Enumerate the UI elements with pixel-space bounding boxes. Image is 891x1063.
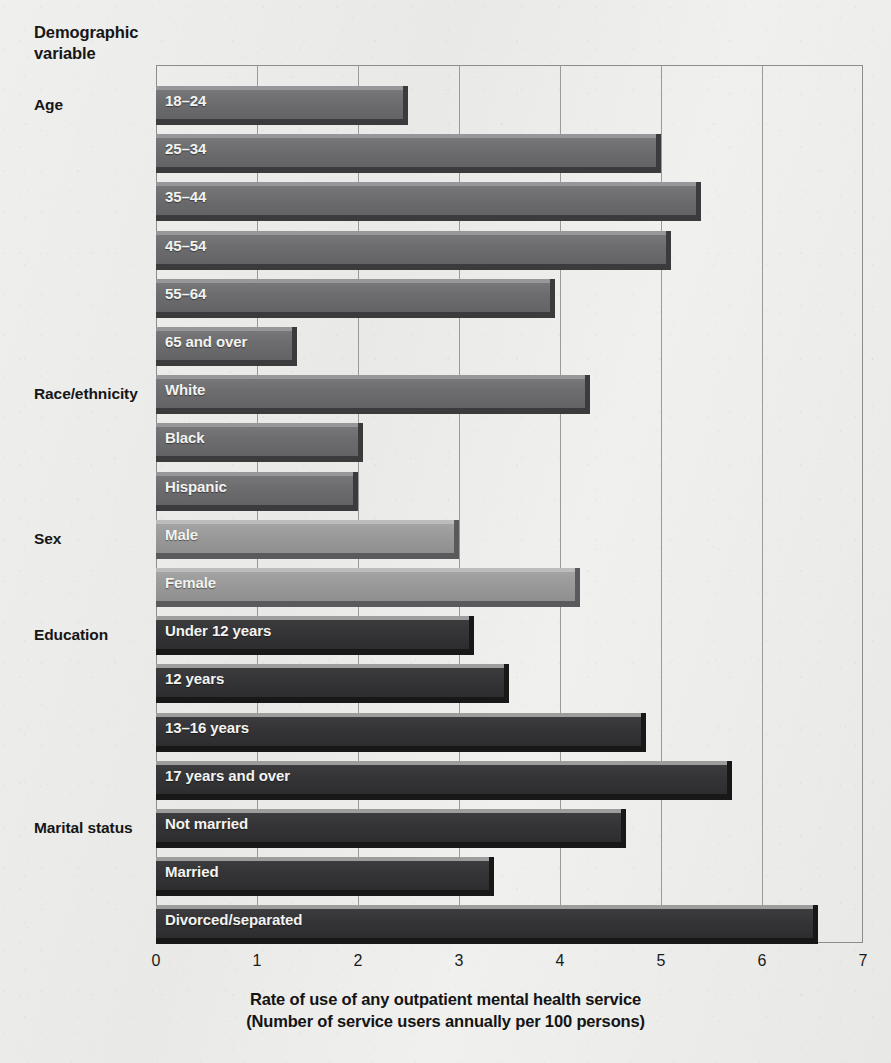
x-tick-label: 4 [556,952,565,970]
bar-bottom-shelf [156,215,701,221]
bar-bottom-shelf [156,794,732,800]
bar-bottom-shelf [156,746,646,752]
bar-row: White [156,375,863,413]
bar-row: 18–24 [156,86,863,124]
bar-label: Divorced/separated [165,905,302,934]
bar-bottom-shelf [156,938,818,944]
bar-bottom-shelf [156,601,580,607]
bar-row: Female [156,568,863,606]
bar [156,283,550,312]
bar-face [156,235,666,264]
bar-label: Not married [165,809,248,838]
bar-face [156,572,575,601]
group-label-marital-status: Marital status [34,813,133,842]
bar-bottom-shelf [156,167,661,173]
bar-right-cap [585,375,590,414]
bar-label: 25–34 [165,134,206,163]
demographic-variable-heading: Demographic variable [34,22,164,64]
bar-row: 17 years and over [156,761,863,799]
bar-right-cap [504,664,509,703]
bar-label: White [165,375,205,404]
bar-face [156,379,585,408]
bar-label: 18–24 [165,86,206,115]
x-tick-label: 2 [354,952,363,970]
bar-label: Under 12 years [165,616,271,645]
bar-label: Male [165,520,198,549]
bar-label: Hispanic [165,472,227,501]
bar-bottom-shelf [156,649,474,655]
bar-row: 45–54 [156,231,863,269]
bar-right-cap [489,857,494,896]
bar [156,235,666,264]
bar-right-cap [813,905,818,944]
bar-face [156,283,550,312]
x-tick-label: 3 [455,952,464,970]
bar-bottom-shelf [156,505,358,511]
bar-face [156,138,656,167]
x-tick-label: 1 [253,952,262,970]
x-tick-label: 7 [859,952,868,970]
bar-bottom-shelf [156,119,408,125]
bar-row: Married [156,857,863,895]
heading-line-1: Demographic [34,23,138,41]
bar-right-cap [353,472,358,511]
bar-label: 35–44 [165,182,206,211]
bar-row: 35–44 [156,182,863,220]
bar-row: 12 years [156,664,863,702]
bar-row: Hispanic [156,472,863,510]
bar-right-cap [727,761,732,800]
bar-row: Not married [156,809,863,847]
x-tick-label: 0 [152,952,161,970]
bar [156,572,575,601]
x-tick-label: 6 [758,952,767,970]
bar-row: 55–64 [156,279,863,317]
bar-row: 65 and over [156,327,863,365]
bar-bottom-shelf [156,456,363,462]
bar-bottom-shelf [156,553,459,559]
bar-label: Female [165,568,216,597]
bar-bottom-shelf [156,360,297,366]
bar-right-cap [666,231,671,270]
bar-bottom-shelf [156,890,494,896]
group-label-sex: Sex [34,524,61,553]
bar [156,186,696,215]
bar-row: Black [156,423,863,461]
bar [156,524,454,553]
bar-bottom-shelf [156,842,626,848]
bar-row: 25–34 [156,134,863,172]
bar-row: Under 12 years [156,616,863,654]
bar-row: 13–16 years [156,713,863,751]
bar-right-cap [696,182,701,221]
bar-label: Married [165,857,219,886]
bar [156,138,656,167]
bar-row: Divorced/separated [156,905,863,943]
bar-right-cap [621,809,626,848]
x-axis-title-line-1: Rate of use of any outpatient mental hea… [250,990,641,1008]
bar [156,379,585,408]
group-label-age: Age [34,90,63,119]
bar-right-cap [575,568,580,607]
bar-label: 65 and over [165,327,247,356]
bar-label: 55–64 [165,279,206,308]
bar-right-cap [358,423,363,462]
bar-face [156,524,454,553]
bar-right-cap [403,86,408,125]
bar-right-cap [656,134,661,173]
x-tick-label: 5 [657,952,666,970]
figure-page: Demographic variable AgeRace/ethnicitySe… [0,0,891,1063]
bar-label: Black [165,423,205,452]
group-label-education: Education [34,620,108,649]
bar-right-cap [641,713,646,752]
bar-bottom-shelf [156,264,671,270]
heading-line-2: variable [34,44,96,62]
bar-bottom-shelf [156,408,590,414]
bar-label: 45–54 [165,231,206,260]
bar-right-cap [292,327,297,366]
group-label-race-ethnicity: Race/ethnicity [34,379,138,408]
bar-label: 13–16 years [165,713,249,742]
bar-right-cap [550,279,555,318]
bar-label: 12 years [165,664,224,693]
bar-bottom-shelf [156,697,509,703]
bar-right-cap [469,616,474,655]
bar-face [156,186,696,215]
